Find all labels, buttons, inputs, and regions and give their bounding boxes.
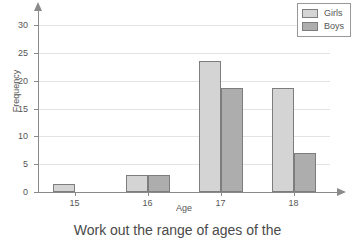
gridline: [38, 53, 330, 54]
bar-boys-17: [221, 88, 243, 192]
x-axis-title: Age: [38, 203, 330, 213]
bar-boys-16: [148, 175, 170, 192]
y-axis-tick-label: 0: [2, 188, 28, 197]
bar-girls-16: [126, 175, 148, 192]
bar-girls-17: [199, 61, 221, 192]
y-axis-title: Frequency: [11, 56, 21, 126]
legend-swatch-girls: [302, 9, 318, 18]
legend-label-girls: Girls: [324, 9, 343, 18]
y-axis-tick-label: 5: [2, 160, 28, 169]
bar-girls-18: [272, 88, 294, 192]
gridline: [38, 81, 330, 82]
y-axis-arrow-icon: [34, 2, 42, 11]
plot-area: 05101520253015161718: [38, 14, 330, 192]
gridline: [38, 25, 330, 26]
bar-boys-18: [294, 153, 316, 192]
question-caption: Work out the range of ages of the: [0, 222, 355, 239]
y-axis-tick-label: 10: [2, 132, 28, 141]
bar-chart-figure: 05101520253015161718 Frequency Age Girls…: [0, 0, 355, 214]
legend-item-boys: Boys: [302, 20, 344, 33]
legend-swatch-boys: [302, 22, 318, 31]
screenshot-canvas: 05101520253015161718 Frequency Age Girls…: [0, 0, 355, 247]
legend-item-girls: Girls: [302, 7, 344, 20]
legend-label-boys: Boys: [324, 22, 344, 31]
x-axis-line: [38, 192, 338, 193]
chart-legend: GirlsBoys: [297, 3, 351, 37]
bar-girls-15: [53, 184, 75, 192]
x-axis-arrow-icon: [337, 188, 346, 196]
y-axis-line: [38, 10, 39, 192]
y-axis-tick-label: 30: [2, 21, 28, 30]
